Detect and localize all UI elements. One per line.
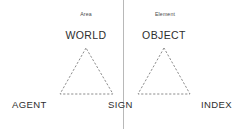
left-term-world: WORLD [46, 29, 126, 41]
bottom-term-sign: SIGN [108, 99, 133, 110]
right-term-object: OBJECT [124, 29, 204, 41]
semiotic-diagram: Area WORLD AGENT Element OBJECT INDEX SI… [0, 0, 247, 129]
right-triangle [138, 48, 190, 94]
left-triangle [60, 48, 113, 94]
left-caption-area: Area [48, 11, 124, 17]
right-caption-element: Element [126, 11, 204, 17]
bottom-term-agent: AGENT [12, 99, 47, 110]
bottom-term-index: INDEX [201, 99, 232, 110]
